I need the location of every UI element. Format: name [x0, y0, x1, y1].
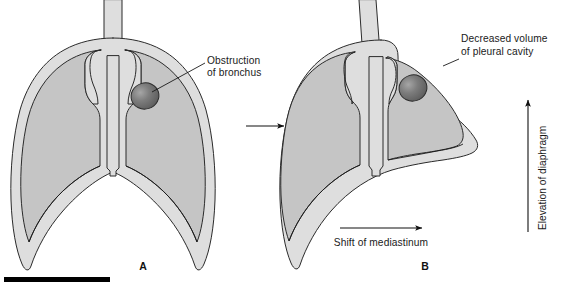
shift-of-mediastinum-label: Shift of mediastinum	[334, 237, 428, 248]
panel-b-caption: B	[421, 260, 429, 272]
panel-a-mediastinum	[107, 56, 119, 176]
decreased-volume-label-line2: of pleural cavity	[461, 46, 534, 57]
elevation-of-diaphragm-label: Elevation of diaphragm	[537, 126, 548, 230]
obstruction-label-line1: Obstruction	[207, 55, 260, 66]
obstruction-label-line2: of bronchus	[207, 67, 261, 78]
panel-b-mediastinum	[369, 57, 383, 176]
panel-a-caption: A	[139, 260, 147, 272]
scale-bar	[4, 277, 110, 282]
figure-root: Obstruction of bronchus A	[0, 0, 575, 287]
decreased-volume-label-line1: Decreased volume	[461, 33, 548, 44]
anatomy-diagram: Obstruction of bronchus A	[0, 0, 575, 287]
